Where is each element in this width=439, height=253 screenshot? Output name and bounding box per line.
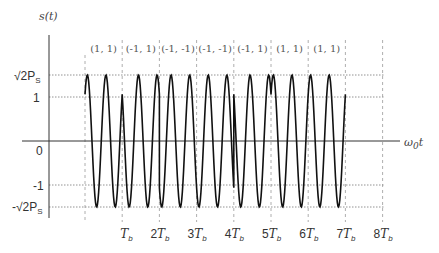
svg-text:√2PS: √2PS bbox=[14, 69, 41, 85]
y-level-0: 0 bbox=[36, 144, 43, 158]
time-tick-labels: Tb2Tb3Tb4Tb5Tb6Tb7Tb8Tb bbox=[120, 227, 393, 243]
symbol-pair-5: (-1, 1) bbox=[237, 43, 267, 54]
symbol-pair-1: (1, 1) bbox=[90, 43, 117, 54]
tick-label-3: 3Tb bbox=[188, 227, 208, 243]
tick-label-7: 7Tb bbox=[336, 227, 356, 243]
y-axis-label: s(t) bbox=[39, 10, 58, 23]
x-axis-label: ω0t bbox=[404, 136, 424, 151]
symbol-pair-7: (1, 1) bbox=[313, 43, 340, 54]
waveform-diagram: s(t) √2PS 1 0 -1 -√2PS ω0t Tb2Tb3Tb4Tb5T… bbox=[0, 0, 439, 253]
svg-text:-√2PS: -√2PS bbox=[12, 200, 43, 216]
symbol-pair-3: (-1, -1) bbox=[161, 43, 195, 54]
tick-label-2: 2Tb bbox=[150, 227, 170, 243]
y-level-neg-sqrt2ps: -√2PS bbox=[12, 200, 43, 216]
svg-text:ω0t: ω0t bbox=[404, 136, 424, 151]
symbol-pair-labels: (1, 1)(-1, 1)(-1, -1)(-1, -1)(-1, 1)(1, … bbox=[90, 43, 340, 54]
tick-label-4: 4Tb bbox=[225, 227, 245, 243]
tick-label-1: Tb bbox=[120, 227, 133, 243]
tick-label-5: 5Tb bbox=[262, 227, 282, 243]
symbol-pair-6: (1, 1) bbox=[276, 43, 303, 54]
tick-label-8: 8Tb bbox=[374, 227, 394, 243]
tick-label-6: 6Tb bbox=[299, 227, 319, 243]
y-level-neg1: -1 bbox=[33, 179, 44, 193]
symbol-pair-4: (-1, -1) bbox=[198, 43, 232, 54]
symbol-pair-2: (-1, 1) bbox=[126, 43, 156, 54]
y-level-sqrt2ps: √2PS bbox=[14, 69, 41, 85]
y-level-1: 1 bbox=[33, 91, 40, 105]
